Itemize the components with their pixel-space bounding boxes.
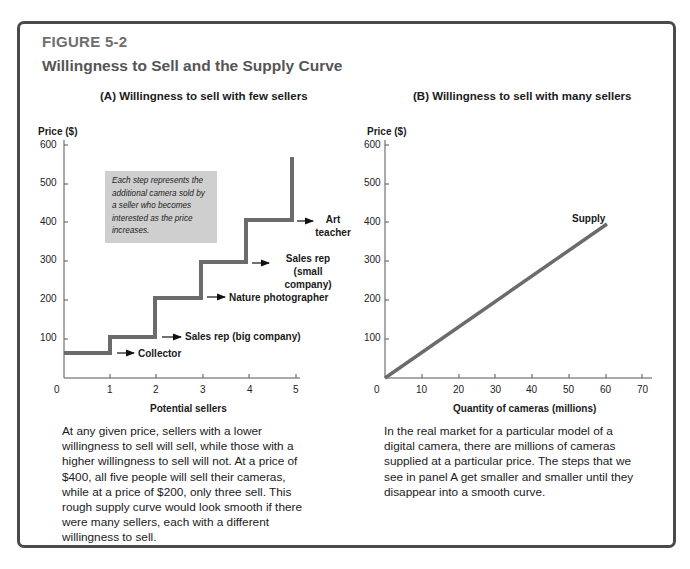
step-supply-curve: [64, 157, 292, 353]
supply-curve: [385, 224, 607, 378]
label-arrows: [117, 221, 313, 353]
chart-graphics: [0, 0, 690, 569]
panel-b-axes: [385, 140, 652, 378]
panel-a-axes: [64, 140, 300, 378]
